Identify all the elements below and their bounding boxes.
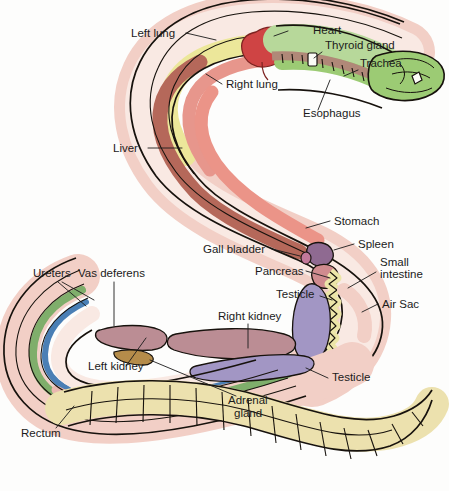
label-thyroid-gland: Thyroid gland — [325, 39, 395, 51]
label-stomach: Stomach — [334, 215, 379, 227]
label-heart: Heart — [313, 24, 342, 36]
neck-outline-bottom — [278, 90, 382, 108]
gall-bladder-organ — [301, 252, 311, 264]
label-spleen: Spleen — [358, 238, 394, 250]
label-ureters: Ureters — [33, 267, 71, 279]
label-adrenal-gland-line1: Adrenal — [228, 394, 268, 406]
label-left-lung: Left lung — [131, 27, 175, 39]
label-small-intestine-line2: intestine — [380, 268, 423, 280]
left-kidney-organ — [96, 326, 167, 351]
label-gall-bladder: Gall bladder — [203, 243, 265, 255]
spleen-organ — [307, 243, 334, 266]
label-testicle-bottom: Testicle — [332, 371, 370, 383]
label-liver: Liver — [113, 142, 138, 154]
anatomy-figure: Left lung Heart Thyroid gland Trachea Ri… — [0, 0, 449, 491]
leader-esophagus — [318, 80, 330, 110]
label-right-kidney: Right kidney — [218, 310, 282, 322]
thyroid-gland-organ — [308, 53, 317, 66]
label-rectum: Rectum — [21, 427, 61, 439]
label-air-sac: Air Sac — [382, 298, 419, 310]
snake-anatomy-diagram: Left lung Heart Thyroid gland Trachea Ri… — [0, 0, 449, 491]
label-vas-deferens: Vas deferens — [78, 267, 145, 279]
label-testicle-top: Testicle — [276, 288, 314, 300]
label-esophagus: Esophagus — [303, 107, 361, 119]
label-trachea: Trachea — [360, 57, 402, 69]
label-small-intestine-line1: Small — [380, 256, 409, 268]
label-adrenal-gland-line2: gland — [234, 407, 262, 419]
label-pancreas: Pancreas — [255, 265, 304, 277]
label-left-kidney: Left kidney — [88, 360, 144, 372]
label-right-lung: Right lung — [226, 78, 278, 90]
